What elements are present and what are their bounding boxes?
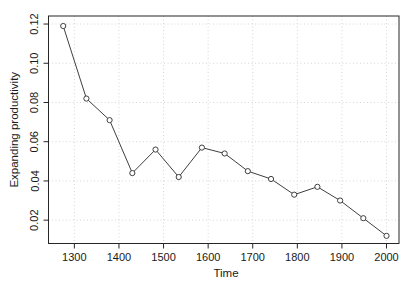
y-tick-label: 0.04: [29, 170, 41, 191]
data-point: [130, 170, 135, 175]
data-point: [384, 233, 389, 238]
x-tick-label: 1900: [330, 251, 354, 263]
y-axis-title: Expanding productivity: [8, 72, 20, 188]
x-tick-label: 1500: [151, 251, 175, 263]
x-tick-label: 1400: [107, 251, 131, 263]
y-tick-label: 0.12: [29, 13, 41, 34]
data-point: [361, 216, 366, 221]
x-tick-label: 2000: [374, 251, 398, 263]
plot-box-border: [49, 16, 400, 244]
y-tick-label: 0.06: [29, 131, 41, 152]
data-point: [222, 151, 227, 156]
data-point: [268, 176, 273, 181]
data-point: [84, 96, 89, 101]
y-tick-label: 0.10: [29, 53, 41, 74]
y-tick-label: 0.02: [29, 209, 41, 230]
data-point: [107, 118, 112, 123]
x-tick-label: 1700: [240, 251, 264, 263]
data-point: [292, 192, 297, 197]
data-point: [176, 174, 181, 179]
x-tick-label: 1600: [196, 251, 220, 263]
grid-layer: [49, 16, 400, 244]
x-axis-title: Time: [213, 267, 238, 279]
data-point: [61, 23, 66, 28]
data-line: [63, 26, 386, 236]
data-series: [61, 23, 389, 238]
data-point: [338, 198, 343, 203]
plot-figure: 130014001500160017001800190020000.020.04…: [0, 0, 419, 290]
data-point: [315, 184, 320, 189]
y-tick-label: 0.08: [29, 92, 41, 113]
axis-ticks: 130014001500160017001800190020000.020.04…: [29, 13, 399, 263]
x-tick-label: 1300: [62, 251, 86, 263]
productivity-line-chart: 130014001500160017001800190020000.020.04…: [0, 0, 419, 290]
data-point: [153, 147, 158, 152]
data-point: [199, 145, 204, 150]
x-tick-label: 1800: [285, 251, 309, 263]
data-point: [245, 169, 250, 174]
plot-box: [49, 16, 400, 244]
